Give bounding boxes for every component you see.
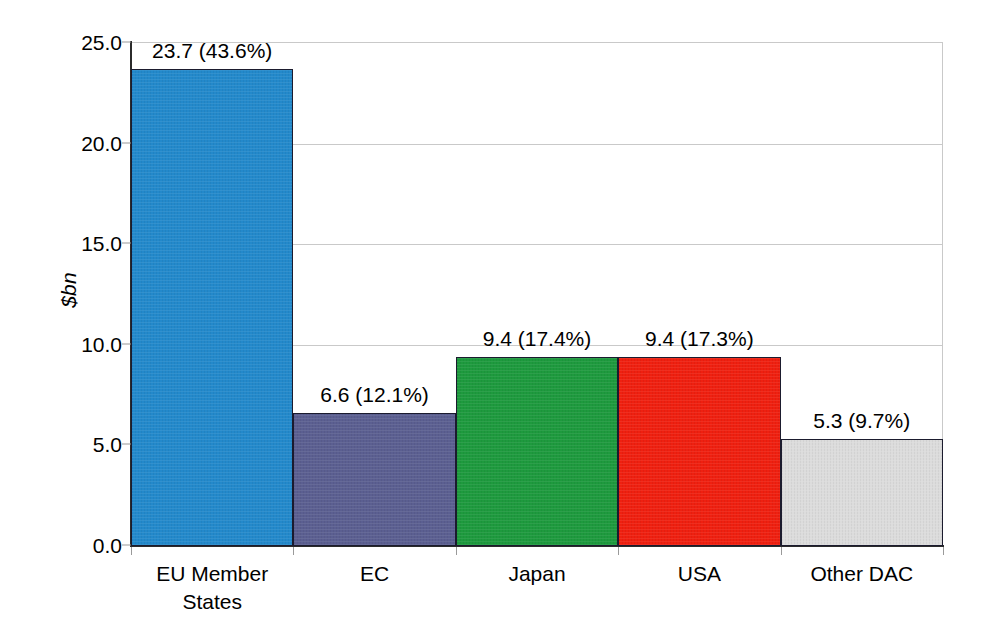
y-tick-mark-15.0 — [122, 243, 131, 244]
y-tick-label-5.0: 5.0 — [52, 434, 122, 455]
bar-value-label-eu-member-states: 23.7 (43.6%) — [152, 40, 272, 61]
bar-slot-3: 9.4 (17.4%) — [456, 42, 618, 546]
y-tick-label-15.0: 15.0 — [52, 233, 122, 254]
y-axis-ticks: 0.05.010.015.020.025.0 — [42, 0, 122, 644]
bar-value-label-ec: 6.6 (12.1%) — [320, 384, 429, 405]
x-tick-mark-2 — [456, 547, 457, 555]
y-tick-mark-10.0 — [122, 343, 131, 344]
x-category-label-japan: Japan — [456, 560, 618, 588]
x-category-label-eu-member-states: EU Member States — [131, 560, 293, 616]
bar-japan[interactable] — [456, 357, 618, 546]
y-tick-label-0.0: 0.0 — [52, 535, 122, 556]
x-tick-mark-0 — [131, 547, 132, 555]
y-tick-mark-0.0 — [122, 545, 131, 546]
y-tick-label-10.0: 10.0 — [52, 333, 122, 354]
bar-slot-1: 23.7 (43.6%) — [131, 42, 293, 546]
bar-slot-5: 5.3 (9.7%) — [781, 42, 943, 546]
bar-texture — [782, 440, 942, 545]
bar-value-label-japan: 9.4 (17.4%) — [483, 328, 592, 349]
y-tick-label-20.0: 20.0 — [52, 132, 122, 153]
bar-eu-member-states[interactable] — [131, 69, 293, 546]
bar-other-dac[interactable] — [781, 439, 943, 546]
x-category-label-ec: EC — [293, 560, 455, 588]
bars-container: 23.7 (43.6%)6.6 (12.1%)9.4 (17.4%)9.4 (1… — [131, 42, 943, 546]
y-tick-mark-20.0 — [122, 142, 131, 143]
bar-slot-4: 9.4 (17.3%) — [618, 42, 780, 546]
bar-texture — [619, 358, 779, 545]
bar-texture — [294, 414, 454, 545]
bar-texture — [457, 358, 617, 545]
bar-value-label-other-dac: 5.3 (9.7%) — [813, 410, 910, 431]
x-tick-mark-5 — [943, 547, 944, 555]
bar-slot-2: 6.6 (12.1%) — [293, 42, 455, 546]
bar-value-label-usa: 9.4 (17.3%) — [645, 328, 754, 349]
x-tick-mark-1 — [293, 547, 294, 555]
y-tick-mark-25.0 — [122, 42, 131, 43]
x-category-label-other-dac: Other DAC — [781, 560, 943, 588]
bar-ec[interactable] — [293, 413, 455, 546]
x-category-label-usa: USA — [618, 560, 780, 588]
bar-texture — [132, 70, 292, 545]
x-tick-mark-3 — [618, 547, 619, 555]
x-tick-mark-4 — [781, 547, 782, 555]
y-tick-mark-5.0 — [122, 444, 131, 445]
bar-chart: $bn 0.05.010.015.020.025.0 23.7 (43.6%)6… — [0, 0, 989, 644]
y-tick-label-25.0: 25.0 — [52, 32, 122, 53]
bar-usa[interactable] — [618, 357, 780, 546]
